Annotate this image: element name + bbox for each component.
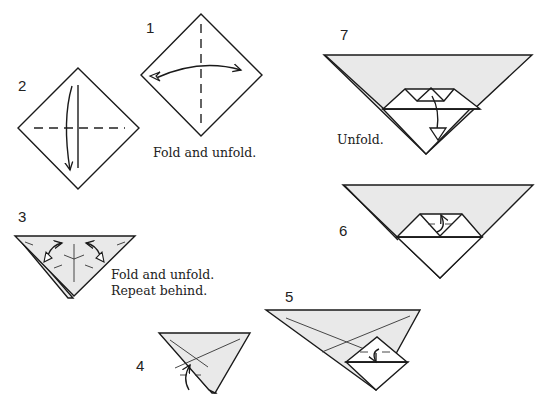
step-number: 4 [136,357,144,374]
step-number: 3 [18,208,26,225]
white-lower-flap [383,109,470,154]
step-number: 2 [18,77,26,94]
white-lower-flap [397,237,482,278]
fold-up-arrow-icon [186,365,190,390]
white-lower-flap [346,362,408,390]
step-7: 7 Unfold. [324,26,532,154]
step-caption: Unfold. [337,132,384,147]
triangle-paper [266,310,420,390]
step-2: 2 [18,68,139,189]
step-number: 7 [340,26,348,43]
step-caption: Fold and unfold. [153,145,256,160]
step-caption-line2: Repeat behind. [111,283,207,298]
step-1: 1 Fold and unfold. [141,14,262,160]
step-4: 4 [136,333,250,393]
step-caption-line1: Fold and unfold. [111,267,214,282]
step-3: 3 Fold and unfold. Repeat behind. [15,208,214,298]
step-6: 6 [339,185,533,278]
step-number: 1 [146,19,154,36]
origami-diagram: 1 Fold and unfold. 2 3 Fold and unfold. … [0,0,556,416]
step-number: 6 [339,222,347,239]
step-number: 5 [285,288,293,305]
step-5: 5 [266,288,420,390]
